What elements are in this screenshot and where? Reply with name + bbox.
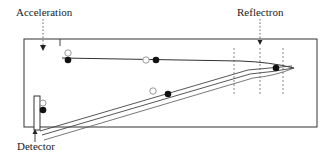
filled-ion-detector <box>40 107 47 114</box>
filled-ion-start <box>65 57 72 64</box>
filled-ion-reflectron <box>273 65 280 72</box>
detector <box>34 96 40 130</box>
detector-arrow-icon <box>33 129 38 142</box>
filled-ion-outgoing <box>153 57 160 64</box>
open-ion-start <box>65 50 71 56</box>
open-ion-outgoing <box>143 57 149 63</box>
open-ion-return <box>150 88 156 94</box>
open-ion-detector <box>40 100 46 106</box>
acceleration-arrow-icon <box>40 19 46 51</box>
outgoing-ion-path <box>62 58 294 68</box>
return-ion-path-c <box>44 68 294 140</box>
tof-diagram <box>0 0 332 156</box>
filled-ion-return <box>165 91 172 98</box>
reflectron-arrow-icon <box>258 19 263 45</box>
